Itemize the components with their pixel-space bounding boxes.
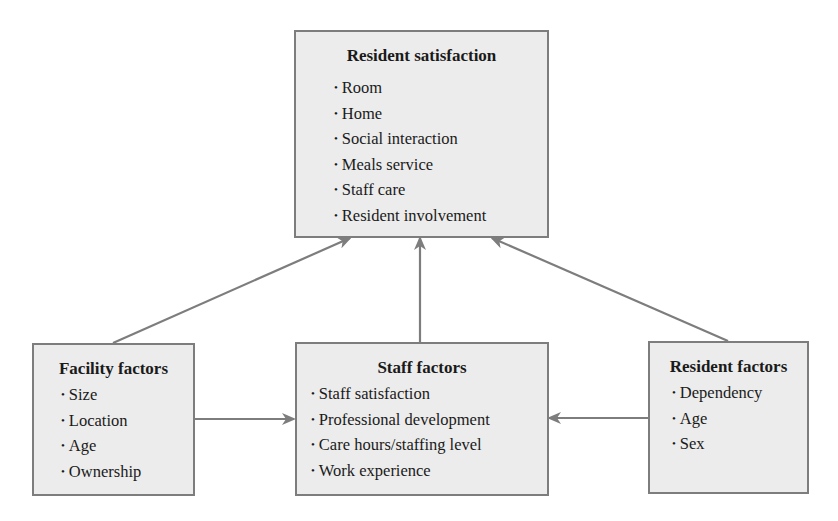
resident-satisfaction-box: Resident satisfaction Room Home Social i…: [294, 30, 549, 238]
resident-satisfaction-list: Room Home Social interaction Meals servi…: [334, 76, 547, 229]
list-item: Care hours/staffing level: [311, 433, 547, 459]
arrow-resident-to-satisfaction: [492, 238, 728, 341]
list-item: Sex: [672, 432, 807, 458]
resident-factors-list: Dependency Age Sex: [672, 381, 807, 458]
resident-factors-box: Resident factors Dependency Age Sex: [648, 341, 809, 494]
list-item: Staff satisfaction: [311, 382, 547, 408]
list-item: Professional development: [311, 408, 547, 434]
list-item: Ownership: [61, 460, 193, 486]
list-item: Age: [672, 407, 807, 433]
staff-factors-list: Staff satisfaction Professional developm…: [311, 382, 547, 484]
list-item: Home: [334, 102, 547, 128]
list-item: Social interaction: [334, 127, 547, 153]
arrow-facility-to-satisfaction: [113, 238, 350, 343]
staff-factors-title: Staff factors: [297, 358, 547, 378]
list-item: Resident involvement: [334, 204, 547, 230]
list-item: Age: [61, 434, 193, 460]
list-item: Staff care: [334, 178, 547, 204]
staff-factors-box: Staff factors Staff satisfaction Profess…: [295, 342, 549, 496]
list-item: Size: [61, 383, 193, 409]
resident-factors-title: Resident factors: [650, 357, 807, 377]
facility-factors-box: Facility factors Size Location Age Owner…: [32, 343, 195, 496]
list-item: Room: [334, 76, 547, 102]
list-item: Meals service: [334, 153, 547, 179]
list-item: Location: [61, 409, 193, 435]
list-item: Dependency: [672, 381, 807, 407]
resident-satisfaction-title: Resident satisfaction: [296, 46, 547, 66]
list-item: Work experience: [311, 459, 547, 485]
facility-factors-title: Facility factors: [34, 359, 193, 379]
facility-factors-list: Size Location Age Ownership: [61, 383, 193, 485]
